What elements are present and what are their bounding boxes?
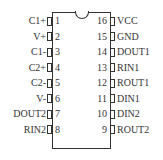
pin-13	[110, 63, 115, 72]
pin-label: DIN2	[117, 109, 140, 119]
pin-14	[110, 48, 115, 57]
pin-number: 9	[102, 125, 107, 135]
pin-number: 13	[97, 63, 107, 73]
pin-label: RIN1	[117, 63, 139, 73]
pin-number: 15	[97, 32, 107, 42]
pin-number: 3	[55, 47, 60, 57]
pin-label: C2-	[31, 78, 46, 88]
pin-7	[47, 110, 52, 119]
pin-label: DOUT1	[117, 47, 150, 57]
pin-number: 14	[97, 47, 107, 57]
pin-number: 5	[55, 78, 60, 88]
pin-15	[110, 32, 115, 41]
pin-number: 6	[55, 94, 60, 104]
pin-10	[110, 110, 115, 119]
pin-12	[110, 79, 115, 88]
pin-number: 10	[97, 109, 107, 119]
pin-label: V-	[36, 94, 46, 104]
pin-label: C2+	[29, 63, 46, 73]
pin-16	[110, 17, 115, 26]
pin-4	[47, 63, 52, 72]
pin-label: VCC	[117, 16, 138, 26]
pin-number: 2	[55, 32, 60, 42]
pin-label: C1+	[29, 16, 46, 26]
pin-number: 7	[55, 109, 60, 119]
pin-label: RIN2	[24, 125, 46, 135]
pin-number: 11	[97, 94, 107, 104]
pin-number: 12	[97, 78, 107, 88]
pin-label: GND	[117, 32, 139, 42]
pin-label: C1-	[31, 47, 46, 57]
pin-label: ROUT2	[117, 125, 149, 135]
pin-label: DOUT2	[13, 109, 46, 119]
pin-1	[47, 17, 52, 26]
pin-number: 4	[55, 63, 60, 73]
pin-11	[110, 94, 115, 103]
pin-label: DIN1	[117, 94, 140, 104]
pin-number: 1	[55, 16, 60, 26]
pin-3	[47, 48, 52, 57]
pin-6	[47, 94, 52, 103]
pin-number: 16	[97, 16, 107, 26]
pin-2	[47, 32, 52, 41]
pin-number: 8	[55, 125, 60, 135]
pin-label: ROUT1	[117, 78, 149, 88]
pin-5	[47, 79, 52, 88]
pin-label: V+	[33, 32, 46, 42]
pin-8	[47, 125, 52, 134]
pin-9	[110, 125, 115, 134]
